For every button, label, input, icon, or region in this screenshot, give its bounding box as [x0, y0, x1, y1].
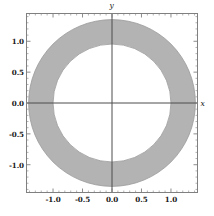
y-axis-label: y	[110, 1, 114, 10]
xtick-label: 1.0	[165, 195, 177, 204]
ytick-label: 0.5	[12, 68, 24, 77]
xtick-label: 0.0	[106, 195, 118, 204]
plot-canvas	[0, 0, 214, 216]
xtick-label: -1.0	[45, 195, 60, 204]
ytick-label: 1.0	[12, 37, 24, 46]
xtick-label: 0.5	[135, 195, 147, 204]
x-axis-label: x	[201, 99, 205, 108]
ytick-label: 0.0	[12, 99, 24, 108]
xtick-label: -0.5	[75, 195, 90, 204]
plot-figure: -1.0 -0.5 0.0 0.5 1.0 1.0 0.5 0.0 -0.5 -…	[0, 0, 214, 216]
ytick-label: -0.5	[9, 129, 24, 138]
ytick-label: -1.0	[9, 160, 24, 169]
annulus-region	[0, 0, 214, 216]
